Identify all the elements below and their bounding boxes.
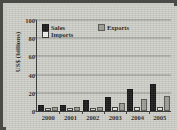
x-tick-label: 2004 — [131, 114, 144, 121]
bar-sales[interactable] — [83, 100, 89, 111]
bar-exports[interactable] — [52, 107, 58, 111]
chart-frame: US$ (billions) 100 80 60 40 20 0 — [0, 0, 177, 130]
bar-imports[interactable] — [112, 107, 118, 111]
chart-canvas: US$ (billions) 100 80 60 40 20 0 — [6, 6, 177, 130]
bar-imports[interactable] — [90, 108, 96, 111]
bar-imports[interactable] — [45, 108, 51, 111]
bar-exports[interactable] — [141, 99, 147, 111]
y-axis-title: US$ (billions) — [14, 16, 22, 88]
bar-imports[interactable] — [67, 108, 73, 111]
bar-imports[interactable] — [134, 107, 140, 111]
legend-row: Sales Exports — [42, 24, 162, 31]
legend-label-imports: Imports — [51, 31, 73, 38]
legend-item-imports[interactable]: Imports — [42, 31, 98, 38]
bar-sales[interactable] — [105, 97, 111, 111]
x-tick-label: 2002 — [86, 114, 99, 121]
bar-imports[interactable] — [157, 107, 163, 111]
bar-sales[interactable] — [127, 89, 133, 111]
legend-item-sales[interactable]: Sales — [42, 24, 98, 31]
bar-sales[interactable] — [150, 84, 156, 111]
legend-label-exports: Exports — [107, 24, 129, 31]
x-tick-label: 2003 — [109, 114, 122, 121]
legend-row: Imports — [42, 31, 162, 38]
legend-item-exports[interactable]: Exports — [98, 24, 129, 31]
x-tick-label: 2000 — [42, 114, 55, 121]
bar-exports[interactable] — [119, 103, 125, 111]
bar-sales[interactable] — [60, 105, 66, 111]
legend-label-sales: Sales — [51, 24, 65, 31]
x-tick-label: 2001 — [64, 114, 77, 121]
bar-exports[interactable] — [74, 107, 80, 111]
bar-exports[interactable] — [164, 96, 170, 111]
chart-legend: Sales Exports Imports — [42, 24, 162, 38]
bar-exports[interactable] — [97, 107, 103, 111]
legend-swatch-sales-icon — [42, 24, 49, 31]
legend-swatch-imports-icon — [42, 31, 49, 38]
legend-swatch-exports-icon — [98, 24, 105, 31]
bar-sales[interactable] — [38, 105, 44, 111]
x-tick-label: 2005 — [153, 114, 166, 121]
